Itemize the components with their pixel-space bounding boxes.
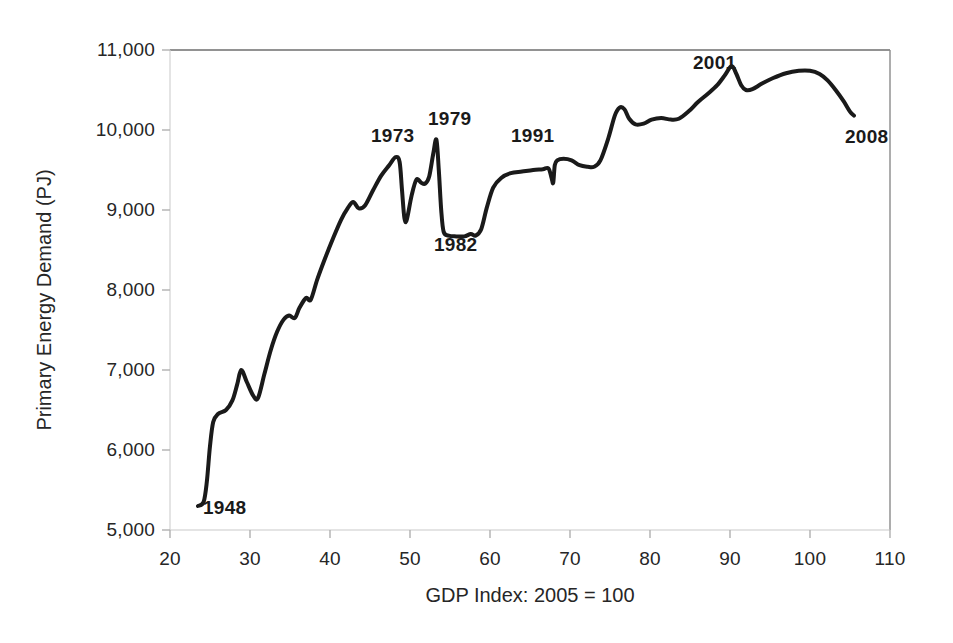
x-tick-label-30: 30 xyxy=(239,548,261,570)
y-tick-label-8000: 8,000 xyxy=(55,279,155,301)
x-tick-label-50: 50 xyxy=(399,548,421,570)
annotation-1979: 1979 xyxy=(428,108,471,130)
x-axis-title: GDP Index: 2005 = 100 xyxy=(425,584,634,607)
y-tick-label-7000: 7,000 xyxy=(55,359,155,381)
y-tick-label-10000: 10,000 xyxy=(55,119,155,141)
y-tick-label-11000: 11,000 xyxy=(55,39,155,61)
annotation-1982: 1982 xyxy=(434,234,477,256)
x-tick-label-70: 70 xyxy=(559,548,581,570)
x-tick-label-80: 80 xyxy=(639,548,661,570)
x-tick-label-90: 90 xyxy=(719,548,741,570)
chart-figure: 11,000 10,000 9,000 8,000 7,000 6,000 5,… xyxy=(0,0,953,643)
plot-frame xyxy=(170,50,890,530)
y-tick-label-9000: 9,000 xyxy=(55,199,155,221)
annotation-1948: 1948 xyxy=(203,497,246,519)
x-tick-label-100: 100 xyxy=(794,548,826,570)
annotation-2008: 2008 xyxy=(845,126,888,148)
annotation-1991: 1991 xyxy=(511,125,554,147)
annotation-1973: 1973 xyxy=(371,125,414,147)
annotation-2001: 2001 xyxy=(693,52,736,74)
x-axis-ticks xyxy=(170,530,890,538)
chart-canvas xyxy=(0,0,953,643)
y-tick-label-5000: 5,000 xyxy=(55,519,155,541)
y-axis-ticks xyxy=(162,50,170,530)
x-tick-label-60: 60 xyxy=(479,548,501,570)
y-axis-title: Primary Energy Demand (PJ) xyxy=(33,169,56,430)
x-tick-label-40: 40 xyxy=(319,548,341,570)
x-tick-label-20: 20 xyxy=(159,548,181,570)
y-tick-label-6000: 6,000 xyxy=(55,439,155,461)
x-tick-label-110: 110 xyxy=(875,548,906,570)
